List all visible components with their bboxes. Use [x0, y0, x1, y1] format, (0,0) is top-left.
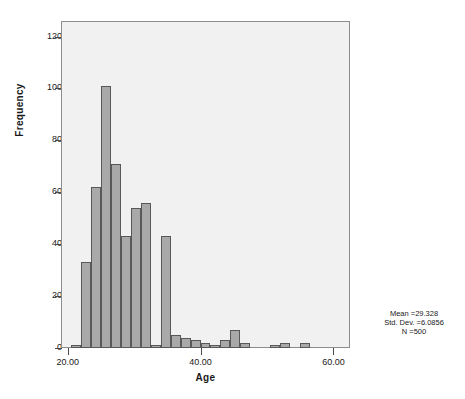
histogram-bar — [181, 338, 191, 348]
y-axis-title: Frequency — [14, 50, 25, 170]
histogram-bar — [270, 345, 280, 348]
y-tick-mark — [55, 348, 62, 349]
histogram-bar — [141, 203, 151, 348]
y-tick: 80 — [0, 140, 62, 141]
stat-n: N =500 — [368, 327, 460, 336]
x-tick-label: 40.00 — [171, 357, 231, 367]
histogram-bar — [101, 86, 111, 348]
y-tick-label: 60 — [18, 186, 62, 196]
histogram-bar — [220, 340, 230, 348]
y-tick: 20 — [0, 296, 62, 297]
y-tick-label: 40 — [18, 238, 62, 248]
x-tick-mark — [68, 348, 69, 355]
y-tick: 100 — [0, 88, 62, 89]
histogram-bar — [131, 208, 141, 348]
histogram-bar — [161, 236, 171, 348]
histogram-bar — [121, 236, 131, 348]
y-tick-label: 120 — [18, 31, 62, 41]
histogram-bar — [280, 343, 290, 348]
y-tick-label: 20 — [18, 290, 62, 300]
x-tick-label: 20.00 — [38, 357, 98, 367]
histogram-figure: Frequency 020406080100120 20.0040.0060.0… — [0, 0, 465, 399]
histogram-bars — [61, 21, 350, 348]
y-tick: 120 — [0, 37, 62, 38]
x-tick-mark — [201, 348, 202, 355]
y-tick: 60 — [0, 192, 62, 193]
y-tick-label: 80 — [18, 134, 62, 144]
histogram-bar — [191, 340, 201, 348]
y-tick: 40 — [0, 244, 62, 245]
histogram-bar — [71, 345, 81, 348]
x-tick-mark — [333, 348, 334, 355]
histogram-bar — [81, 262, 91, 348]
stat-stddev: Std. Dev. =6.0856 — [368, 318, 460, 327]
histogram-bar — [151, 345, 161, 348]
x-axis-title: Age — [61, 372, 350, 383]
y-tick-label: 100 — [18, 82, 62, 92]
histogram-bar — [171, 335, 181, 348]
histogram-bar — [240, 343, 250, 348]
y-tick: 0 — [0, 348, 62, 349]
stat-mean: Mean =29.328 — [368, 309, 460, 318]
x-tick-label: 60.00 — [303, 357, 363, 367]
histogram-bar — [201, 343, 211, 348]
histogram-bar — [91, 187, 101, 348]
histogram-bar — [111, 164, 121, 348]
histogram-bar — [230, 330, 240, 348]
statistics-annotation: Mean =29.328 Std. Dev. =6.0856 N =500 — [368, 309, 460, 336]
y-tick-label: 0 — [18, 342, 62, 352]
histogram-bar — [300, 343, 310, 348]
histogram-bar — [210, 345, 220, 348]
